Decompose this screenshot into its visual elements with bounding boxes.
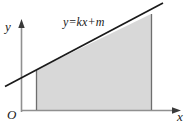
line-equation-label: y=kx+m [63, 16, 104, 28]
figure-canvas: y x O y=kx+m [0, 0, 189, 128]
y-axis-label: y [5, 20, 11, 33]
y-axis-arrowhead [18, 19, 24, 28]
origin-label: O [7, 108, 16, 121]
x-axis-label: x [177, 110, 183, 123]
